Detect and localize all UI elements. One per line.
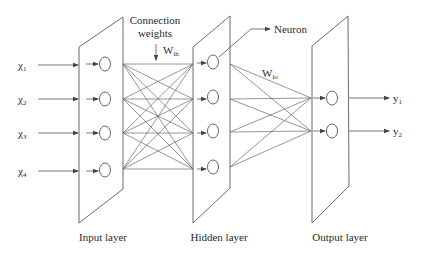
input-layer-panel (79, 17, 123, 223)
input-neuron-2 (100, 92, 111, 106)
output-y1: y1 (349, 92, 403, 106)
input-neuron-1 (100, 57, 111, 71)
neural-network-diagram: χ1 χ2 χ3 χ4 (0, 0, 427, 257)
weight-label-wio: Wio (262, 67, 278, 81)
connection-weights-line2: weights (138, 27, 172, 39)
input-layer-label: Input layer (79, 231, 127, 243)
connection-weights-line1: Connection (130, 14, 181, 26)
input-x4: χ4 (17, 165, 78, 179)
input-label-x4: χ4 (17, 165, 27, 179)
hidden-neuron-2 (208, 90, 219, 104)
input-neuron-4 (100, 163, 111, 177)
neuron-callout: Neuron (219, 23, 307, 57)
neuron-callout-label: Neuron (274, 23, 307, 35)
hidden-layer-panel (193, 16, 230, 223)
input-x1: χ1 (17, 59, 78, 73)
output-label-y2: y2 (393, 125, 403, 139)
hidden-neuron-1 (208, 55, 219, 69)
hidden-neuron-4 (208, 160, 219, 174)
output-layer-label: Output layer (312, 231, 368, 243)
weight-label-wih: Wih (163, 44, 179, 58)
input-x3: χ3 (17, 127, 78, 141)
input-label-x2: χ2 (17, 93, 27, 107)
hidden-output-connections (230, 64, 311, 167)
input-label-x1: χ1 (17, 59, 27, 73)
output-layer-panel (312, 16, 349, 223)
input-hidden-connections (123, 64, 193, 169)
hidden-neuron-3 (208, 124, 219, 138)
connection-weights-annotation: Connection weights Wih (130, 14, 181, 60)
output-label-y1: y1 (393, 92, 403, 106)
input-label-x3: χ3 (17, 127, 27, 141)
hidden-layer-label: Hidden layer (190, 231, 247, 243)
output-neuron-2 (327, 124, 338, 138)
input-x2: χ2 (17, 93, 78, 107)
output-neuron-1 (327, 91, 338, 105)
output-y2: y2 (349, 125, 403, 139)
input-neuron-3 (100, 126, 111, 140)
